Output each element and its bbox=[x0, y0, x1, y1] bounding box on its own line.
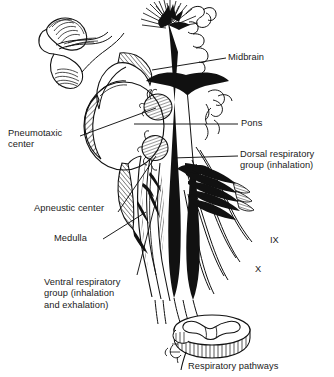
label-medulla: Medulla bbox=[54, 233, 87, 244]
cerebral-outline-right bbox=[186, 6, 216, 73]
label-pneumotaxic-center-line1: Pneumotaxic bbox=[8, 128, 62, 138]
cerebral-outline-lower-right bbox=[205, 90, 232, 140]
label-apneustic-center: Apneustic center bbox=[34, 203, 104, 214]
figure-caption: Respiratory pathways bbox=[188, 361, 278, 372]
label-ventral-respiratory-group-line1: Ventral respiratory bbox=[44, 277, 120, 287]
label-ventral-respiratory-group-line2: group (inhalation bbox=[44, 288, 114, 298]
label-pneumotaxic-center-line2: center bbox=[8, 139, 34, 149]
label-dorsal-respiratory-group-line1: Dorsal respiratory bbox=[240, 149, 314, 159]
medulla-body bbox=[133, 156, 170, 301]
brainstem-illustration bbox=[0, 0, 334, 377]
label-pons: Pons bbox=[241, 118, 262, 129]
label-ventral-respiratory-group-line3: and exhalation) bbox=[44, 300, 108, 310]
label-cranial-nerve-ix: IX bbox=[270, 235, 279, 245]
label-dorsal-respiratory-group-line2: group (inhalation) bbox=[240, 160, 313, 170]
label-ventral-respiratory-group: Ventral respiratorygroup (inhalationand … bbox=[44, 277, 120, 311]
leader-midbrain bbox=[152, 58, 226, 70]
respiratory-pathways-figure: Midbrain Pons Dorsal respiratorygroup (i… bbox=[0, 0, 334, 377]
label-dorsal-respiratory-group: Dorsal respiratorygroup (inhalation) bbox=[240, 149, 314, 172]
label-midbrain: Midbrain bbox=[228, 52, 264, 63]
label-pneumotaxic-center: Pneumotaxiccenter bbox=[8, 128, 62, 151]
leader-ventral-respiratory-group bbox=[137, 185, 160, 275]
cerebellum-group bbox=[39, 18, 124, 88]
label-cranial-nerve-x: X bbox=[255, 264, 261, 274]
